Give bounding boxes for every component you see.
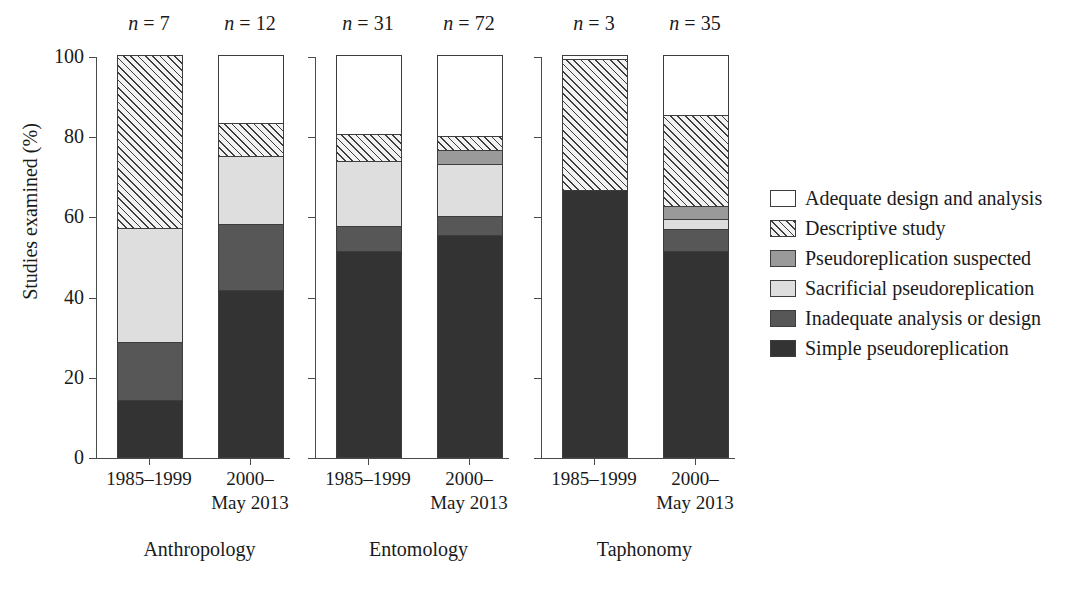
legend-item-simple-pseudoreplication[interactable]: Simple pseudoreplication — [770, 333, 1090, 363]
segment-inadequate-analysis-or-design — [219, 224, 283, 290]
legend-label: Pseudoreplication suspected — [805, 247, 1031, 270]
segment-sacrificial-pseudoreplication — [118, 228, 182, 343]
segment-adequate-design-and-analysis — [438, 56, 502, 136]
y-tick-mark-panel-3-40 — [534, 298, 541, 299]
y-tick-mark-100 — [89, 57, 96, 58]
y-tick-mark-panel-3-60 — [534, 217, 541, 218]
legend-label: Sacrificial pseudoreplication — [805, 277, 1034, 300]
y-tick-label-100: 100 — [40, 46, 84, 66]
bar-taphonomy-2000-2013[interactable] — [663, 55, 729, 458]
y-tick-mark-panel-3-100 — [534, 57, 541, 58]
bar-entomology-1985-1999[interactable] — [336, 55, 402, 458]
period-label-taphonomy-2: 2000–May 2013 — [620, 467, 770, 515]
segment-simple-pseudoreplication — [563, 190, 627, 457]
n-label-entomology-bar-2: n = 72 — [404, 12, 534, 35]
y-tick-mark-20 — [89, 378, 96, 379]
legend-item-descriptive-study[interactable]: Descriptive study — [770, 213, 1090, 243]
segment-sacrificial-pseudoreplication — [219, 156, 283, 224]
panel-taphonomy: n = 31985–1999n = 352000–May 2013Taphono… — [541, 0, 741, 593]
legend-label: Adequate design and analysis — [805, 187, 1042, 210]
segment-descriptive-study — [664, 115, 728, 206]
segment-descriptive-study — [337, 134, 401, 161]
y-tick-mark-panel-2-20 — [308, 378, 315, 379]
segment-sacrificial-pseudoreplication — [438, 164, 502, 216]
bar-anthropology-2000-2013[interactable] — [218, 55, 284, 458]
legend-swatch-hatch — [770, 220, 796, 237]
bar-entomology-2000-2013[interactable] — [437, 55, 503, 458]
segment-inadequate-analysis-or-design — [118, 342, 182, 399]
y-tick-mark-60 — [89, 217, 96, 218]
segment-sacrificial-pseudoreplication — [337, 161, 401, 226]
y-tick-mark-panel-3-80 — [534, 137, 541, 138]
segment-simple-pseudoreplication — [337, 251, 401, 457]
bar-taphonomy-1985-1999[interactable] — [562, 55, 628, 458]
panel-entomology: n = 311985–1999n = 722000–May 2013Entomo… — [315, 0, 515, 593]
chart-legend: Adequate design and analysisDescriptive … — [770, 183, 1090, 363]
y-axis-label: Studies examined (%) — [19, 12, 42, 412]
legend-label: Simple pseudoreplication — [805, 337, 1009, 360]
segment-simple-pseudoreplication — [118, 400, 182, 457]
segment-sacrificial-pseudoreplication — [664, 219, 728, 229]
n-label-anthropology-bar-2: n = 12 — [185, 12, 315, 35]
legend-item-pseudoreplication-suspected[interactable]: Pseudoreplication suspected — [770, 243, 1090, 273]
legend-label: Descriptive study — [805, 217, 946, 240]
y-tick-label-0: 0 — [40, 447, 84, 467]
y-tick-label-20: 20 — [40, 367, 84, 387]
stacked-bar-chart-figure: Studies examined (%) 100806040200 n = 71… — [0, 0, 1091, 593]
segment-simple-pseudoreplication — [438, 235, 502, 457]
legend-label: Inadequate analysis or design — [805, 307, 1041, 330]
y-tick-mark-panel-3-20 — [534, 378, 541, 379]
legend-swatch-midgray — [770, 250, 796, 267]
legend-swatch-lightgray — [770, 280, 796, 297]
segment-inadequate-analysis-or-design — [337, 226, 401, 252]
y-tick-mark-panel-3-0 — [534, 458, 541, 459]
panel-anthropology: n = 71985–1999n = 122000–May 2013Anthrop… — [96, 0, 296, 593]
segment-descriptive-study — [563, 59, 627, 190]
segment-descriptive-study — [438, 136, 502, 150]
segment-pseudoreplication-suspected — [664, 206, 728, 219]
y-tick-mark-panel-2-80 — [308, 137, 315, 138]
segment-adequate-design-and-analysis — [664, 56, 728, 115]
y-tick-mark-0 — [89, 458, 96, 459]
legend-item-sacrificial-pseudoreplication[interactable]: Sacrificial pseudoreplication — [770, 273, 1090, 303]
legend-swatch-white — [770, 190, 796, 207]
segment-simple-pseudoreplication — [664, 251, 728, 457]
legend-item-inadequate-analysis-or-design[interactable]: Inadequate analysis or design — [770, 303, 1090, 333]
group-label-taphonomy: Taphonomy — [515, 538, 775, 561]
n-label-taphonomy-bar-2: n = 35 — [630, 12, 760, 35]
segment-adequate-design-and-analysis — [337, 56, 401, 134]
segment-adequate-design-and-analysis — [219, 56, 283, 123]
legend-swatch-darkgray — [770, 310, 796, 327]
y-tick-label-40: 40 — [40, 287, 84, 307]
y-tick-mark-80 — [89, 137, 96, 138]
legend-swatch-black — [770, 340, 796, 357]
segment-simple-pseudoreplication — [219, 290, 283, 457]
y-tick-label-80: 80 — [40, 126, 84, 146]
segment-inadequate-analysis-or-design — [438, 216, 502, 235]
segment-inadequate-analysis-or-design — [664, 229, 728, 251]
y-tick-mark-40 — [89, 298, 96, 299]
y-tick-mark-panel-2-40 — [308, 298, 315, 299]
bar-anthropology-1985-1999[interactable] — [117, 55, 183, 458]
segment-descriptive-study — [219, 123, 283, 156]
legend-item-adequate-design-and-analysis[interactable]: Adequate design and analysis — [770, 183, 1090, 213]
y-tick-mark-panel-2-60 — [308, 217, 315, 218]
segment-pseudoreplication-suspected — [438, 150, 502, 164]
y-tick-mark-panel-2-100 — [308, 57, 315, 58]
y-tick-label-60: 60 — [40, 206, 84, 226]
group-label-entomology: Entomology — [289, 538, 549, 561]
y-tick-mark-panel-2-0 — [308, 458, 315, 459]
segment-descriptive-study — [118, 56, 182, 227]
